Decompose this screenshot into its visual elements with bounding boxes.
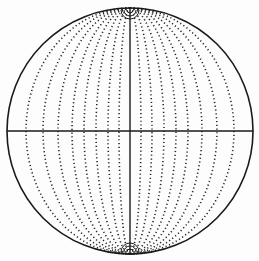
diagram-canvas <box>0 0 259 261</box>
globe-diagram <box>0 0 259 261</box>
